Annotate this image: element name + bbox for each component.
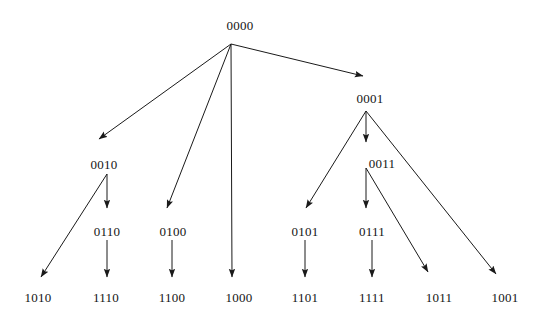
tree-node-0001: 0001 bbox=[356, 92, 383, 105]
tree-node-0110: 0110 bbox=[94, 225, 121, 238]
tree-edge bbox=[306, 111, 366, 208]
tree-node-0111: 0111 bbox=[359, 225, 385, 238]
tree-node-1000: 1000 bbox=[225, 291, 252, 304]
tree-node-0000: 0000 bbox=[226, 19, 253, 32]
edge-layer bbox=[0, 0, 535, 315]
tree-edge bbox=[366, 168, 428, 272]
tree-node-1001: 1001 bbox=[491, 291, 518, 304]
tree-edge bbox=[231, 44, 363, 76]
tree-edge bbox=[99, 44, 231, 139]
tree-node-1110: 1110 bbox=[93, 291, 119, 304]
tree-node-1111: 1111 bbox=[359, 291, 385, 304]
tree-edge bbox=[231, 44, 232, 277]
tree-node-0101: 0101 bbox=[291, 225, 318, 238]
tree-edge bbox=[366, 111, 496, 274]
tree-node-0010: 0010 bbox=[90, 158, 117, 171]
tree-node-1011: 1011 bbox=[426, 291, 453, 304]
tree-node-1101: 1101 bbox=[292, 291, 319, 304]
tree-node-1010: 1010 bbox=[24, 291, 51, 304]
tree-node-0100: 0100 bbox=[159, 225, 186, 238]
tree-diagram: 0000000100100011010001010110011110001001… bbox=[0, 0, 535, 315]
tree-edge bbox=[167, 44, 231, 208]
tree-node-1100: 1100 bbox=[159, 291, 186, 304]
tree-node-0011: 0011 bbox=[369, 157, 396, 170]
